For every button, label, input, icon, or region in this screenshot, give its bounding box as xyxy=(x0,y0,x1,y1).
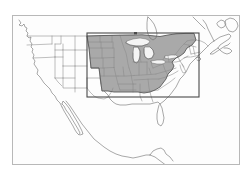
map-figure xyxy=(0,0,251,178)
extent-rect-top-tick xyxy=(134,32,137,34)
screenshot-root xyxy=(0,0,251,178)
map-svg xyxy=(0,0,251,178)
